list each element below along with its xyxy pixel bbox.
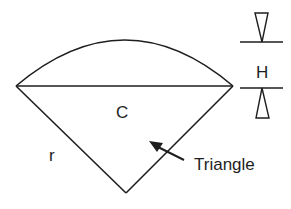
radius-label: r	[49, 146, 55, 165]
down-triangle-icon	[255, 13, 268, 42]
height-dimension: H	[240, 13, 283, 118]
radius-left-line	[16, 86, 126, 193]
up-triangle-icon	[256, 88, 269, 118]
segment-arc	[16, 40, 233, 86]
arrow-icon	[149, 141, 184, 160]
radius-right-line	[126, 86, 233, 193]
triangle-label: Triangle	[194, 155, 255, 174]
height-label: H	[256, 63, 268, 82]
circular-segment-diagram: C r Triangle H	[0, 0, 291, 209]
chord-label: C	[116, 103, 128, 122]
